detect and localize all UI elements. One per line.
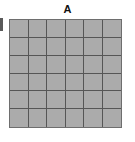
heatmap-grid	[10, 20, 121, 127]
heatmap-cell	[29, 20, 48, 38]
heatmap-cell	[47, 74, 66, 92]
heatmap-cell	[66, 109, 85, 127]
heatmap-cell	[29, 109, 48, 127]
heatmap-cell	[47, 38, 66, 56]
heatmap-panel	[9, 19, 122, 128]
heatmap-cell	[29, 74, 48, 92]
heatmap-cell	[29, 56, 48, 74]
heatmap-cell	[10, 20, 29, 38]
heatmap-cell	[103, 20, 122, 38]
heatmap-cell	[29, 91, 48, 109]
heatmap-cell	[84, 109, 103, 127]
heatmap-cell	[103, 38, 122, 56]
heatmap-cell	[47, 20, 66, 38]
heatmap-cell	[84, 20, 103, 38]
heatmap-cell	[47, 56, 66, 74]
heatmap-cell	[84, 38, 103, 56]
heatmap-cell	[47, 109, 66, 127]
adjacent-panel-edge	[0, 18, 3, 31]
heatmap-cell	[10, 91, 29, 109]
page-title: A	[0, 3, 135, 16]
heatmap-cell	[84, 56, 103, 74]
heatmap-cell	[66, 91, 85, 109]
heatmap-cell	[29, 38, 48, 56]
heatmap-cell	[10, 56, 29, 74]
heatmap-cell	[10, 109, 29, 127]
heatmap-cell	[66, 20, 85, 38]
heatmap-cell	[66, 74, 85, 92]
heatmap-cell	[10, 74, 29, 92]
heatmap-cell	[66, 56, 85, 74]
heatmap-cell	[10, 38, 29, 56]
heatmap-cell	[84, 91, 103, 109]
heatmap-cell	[103, 109, 122, 127]
heatmap-cell	[47, 91, 66, 109]
heatmap-cell	[66, 38, 85, 56]
heatmap-cell	[84, 74, 103, 92]
heatmap-cell	[103, 91, 122, 109]
heatmap-cell	[103, 74, 122, 92]
chart-canvas: A	[0, 0, 135, 142]
heatmap-cell	[103, 56, 122, 74]
